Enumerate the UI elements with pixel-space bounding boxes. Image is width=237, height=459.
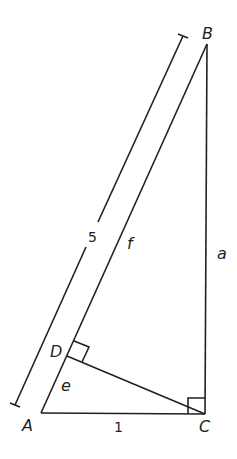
segment-label-e: e bbox=[61, 376, 71, 395]
segment-label-1: 1 bbox=[114, 419, 123, 435]
side-bc bbox=[205, 44, 207, 414]
dimension-line-lower bbox=[15, 247, 86, 405]
length-label-5: 5 bbox=[88, 229, 97, 245]
segment-label-a: a bbox=[217, 244, 227, 263]
right-angle-marker-d bbox=[74, 341, 89, 362]
triangle-diagram: B A C D 5 f a e 1 bbox=[0, 0, 237, 459]
side-ab bbox=[41, 44, 207, 413]
right-angle-marker-c bbox=[188, 398, 205, 414]
segment-label-f: f bbox=[127, 234, 135, 253]
vertex-label-b: B bbox=[202, 24, 213, 43]
vertex-label-d: D bbox=[50, 342, 62, 361]
side-ac bbox=[41, 413, 205, 414]
dimension-line-upper bbox=[98, 36, 183, 222]
vertex-label-c: C bbox=[199, 417, 211, 436]
vertex-label-a: A bbox=[21, 416, 33, 435]
altitude-cd bbox=[67, 356, 205, 414]
